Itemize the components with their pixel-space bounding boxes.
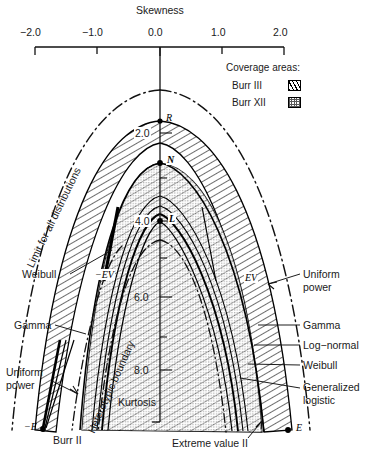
callout-left-uniform-power-line2: power — [6, 379, 35, 392]
x-tick-label-neg1: −1.0 — [82, 26, 103, 38]
legend-swatch-burr-xii — [288, 97, 301, 108]
callout-right-gen-logistic-line1: Generalized — [303, 381, 360, 394]
callout-right-gen-logistic-line2: logistic — [303, 394, 335, 407]
callout-right-gamma: Gamma — [303, 319, 340, 332]
x-tick-label-zero: 0.0 — [148, 26, 163, 38]
y-tick-label-6: 6.0 — [134, 291, 149, 303]
x-tick-label-pos1: 1.0 — [211, 26, 226, 38]
point-l — [157, 218, 163, 224]
legend-label-burr-xii: Burr XII — [232, 97, 266, 108]
x-axis-title: Skewness — [136, 4, 184, 16]
point-r — [157, 118, 162, 123]
y-tick-label-8: 8.0 — [134, 364, 149, 376]
point-label-n: N — [166, 154, 175, 165]
curve-label-burr-ii: Burr II — [53, 434, 82, 447]
point-label-r: R — [166, 112, 172, 123]
callout-right-weibull: Weibull — [303, 359, 337, 372]
callout-left-uniform-power-line1: Uniform — [6, 366, 43, 379]
y-tick-label-4: 4.0 — [134, 215, 151, 227]
x-tick-label-neg2: −2.0 — [20, 26, 41, 38]
point-label-e: E — [296, 422, 302, 433]
callout-left-weibull: Weibull — [22, 268, 56, 281]
y-axis-title: Kurtosis — [118, 396, 156, 408]
point-label-l: L — [168, 213, 176, 224]
legend-label-burr-iii: Burr III — [232, 80, 262, 91]
callout-left-gamma: Gamma — [14, 319, 51, 332]
y-tick-label-2: 2.0 — [134, 127, 151, 139]
callout-right-log-normal: Log−normal — [303, 339, 359, 352]
point-minus-e — [40, 426, 46, 432]
callout-right-uniform-power-line2: power — [303, 281, 332, 294]
point-label-minus-e: −E — [24, 421, 37, 432]
point-label-minus-ev: −EV — [94, 269, 115, 280]
curve-label-extreme-value-ii: Extreme value II — [172, 437, 248, 450]
point-n — [157, 160, 163, 166]
legend-swatch-burr-iii — [288, 80, 301, 91]
point-e — [285, 427, 291, 433]
legend-title: Coverage areas: — [226, 62, 300, 73]
callout-right-uniform-power-line1: Uniform — [303, 268, 340, 281]
x-tick-label-pos2: 2.0 — [273, 26, 288, 38]
point-label-ev: EV — [244, 272, 258, 283]
